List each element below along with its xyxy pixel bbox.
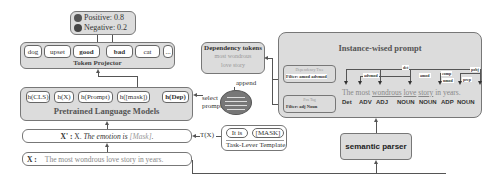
x-label: X :	[27, 155, 37, 164]
dep-label-advmod: advmod	[363, 73, 379, 78]
token-projector: dog upset good bad cat ... Token Project…	[20, 42, 175, 69]
prompt-bank-icon	[220, 90, 252, 115]
template-mask: [MASK]	[252, 128, 284, 138]
smile-icon	[74, 14, 82, 22]
dependency-tokens: Dependency tokens most wondrous love sto…	[201, 42, 265, 74]
template-title: Task-Lever Template	[226, 141, 285, 149]
template-it-is: It is	[226, 128, 248, 138]
pos-tag-1: ADV	[359, 99, 372, 105]
instance-prompt-title: Instance-wised prompt	[279, 43, 481, 53]
token-ellipsis: ...	[163, 45, 173, 58]
pretrained-language-models: h(CLS) h(X) h(Prompt) h([mask]) h(Dep) P…	[20, 87, 193, 121]
template-function: T(X)	[200, 131, 214, 139]
hidden-dep: h(Dep)	[162, 91, 189, 103]
token-good: good	[73, 45, 100, 58]
dependency-tree-filter: Dependency Tree Filter: amod advmod	[283, 65, 336, 83]
append-label: append	[236, 79, 256, 87]
token-dog: dog	[24, 45, 42, 58]
xprime-label: X' :	[61, 132, 73, 141]
x-text: The most wondrous love story in years.	[45, 155, 164, 164]
prompted-input: X' : X. The emotion is [Mask] .	[22, 129, 192, 143]
token-projector-title: Token Projector	[21, 59, 174, 67]
token-cat: cat	[135, 45, 160, 58]
negative-score: Negative: 0.2	[84, 23, 127, 32]
dep-label-amod: amod	[419, 73, 431, 78]
pos-tag-filter: Pos Tag Filter: adj Noun	[283, 95, 336, 113]
instance-wised-prompt: Instance-wised prompt Dependency Tree Fi…	[278, 32, 482, 118]
dependency-tokens-line2: love story	[202, 62, 264, 68]
hidden-mask: h([mask])	[117, 91, 150, 103]
dependency-tokens-line1: most wondrous	[202, 53, 264, 59]
task-level-template: It is [MASK] Task-Lever Template	[221, 125, 287, 151]
select-prompt-label-1: select	[202, 94, 218, 102]
pos-tag-6: NOUN	[457, 99, 475, 105]
semantic-parser-label: semantic parser	[345, 142, 406, 151]
dep-label-nmod: nmod	[442, 78, 454, 83]
pos-tag-5: ADP	[441, 99, 454, 105]
dep-label-det: det	[402, 65, 409, 70]
hidden-prompt: h(Prompt)	[78, 91, 113, 103]
xprime-italic: The emotion is	[83, 132, 127, 141]
hidden-x: h(X)	[54, 91, 74, 103]
xprime-mask: [Mask]	[128, 132, 152, 141]
xprime-text: X.	[72, 132, 83, 141]
dep-label-prep: prep	[462, 77, 472, 82]
token-bad: bad	[106, 45, 133, 58]
dependency-tokens-title: Dependency tokens	[202, 44, 264, 52]
pos-tag-4: NOUN	[419, 99, 437, 105]
hidden-cls: h(CLS)	[26, 91, 50, 103]
dep-label-pobj: pobj	[470, 67, 480, 72]
parsed-sentence: The most wondrous love story in years.	[342, 88, 461, 97]
token-upset: upset	[44, 45, 71, 58]
positive-score: Positive: 0.8	[84, 13, 124, 22]
frown-icon	[74, 24, 82, 32]
dep-label-comp: comp	[441, 71, 452, 76]
semantic-parser: semantic parser	[340, 133, 412, 160]
pos-tag-3: NOUN	[397, 99, 415, 105]
plm-title: Pretrained Language Models	[21, 106, 192, 116]
output-probabilities: Positive: 0.8 Negative: 0.2	[70, 11, 136, 35]
input-sentence: X : The most wondrous love story in year…	[22, 152, 192, 166]
pos-tag-2: ADJ	[376, 99, 388, 105]
pos-tag-0: Det	[342, 99, 352, 105]
